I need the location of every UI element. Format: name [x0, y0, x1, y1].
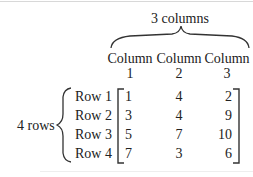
matrix-cell-r4-c3: 6 — [210, 147, 232, 161]
matrix-cell-r4-c2: 3 — [170, 147, 188, 161]
column-header-1-number: 1 — [106, 67, 154, 81]
column-header-2: Column — [155, 52, 203, 66]
column-header-3: Column — [203, 52, 251, 66]
matrix-cell-r4-c1: 7 — [125, 147, 132, 161]
columns-brace-icon — [111, 26, 249, 48]
rows-brace-icon — [57, 88, 71, 162]
row-label-2: Row 2 — [75, 109, 112, 123]
rows-count-label: 4 rows — [17, 119, 55, 133]
matrix-cell-r1-c3: 2 — [210, 90, 232, 104]
column-header-1: Column — [106, 52, 154, 66]
row-label-4: Row 4 — [75, 147, 112, 161]
right-bracket-icon — [233, 89, 239, 163]
matrix-cell-r1-c2: 4 — [170, 90, 188, 104]
row-label-1: Row 1 — [75, 90, 112, 104]
left-bracket-icon — [118, 89, 124, 163]
matrix-cell-r2-c3: 9 — [210, 109, 232, 123]
column-header-2-number: 2 — [155, 67, 203, 81]
matrix-cell-r1-c1: 1 — [125, 90, 132, 104]
bottom-divider — [40, 171, 253, 172]
matrix-cell-r2-c1: 3 — [125, 109, 132, 123]
row-label-3: Row 3 — [75, 128, 112, 142]
matrix-cell-r3-c1: 5 — [125, 128, 132, 142]
matrix-cell-r3-c2: 7 — [170, 128, 188, 142]
matrix-cell-r2-c2: 4 — [170, 109, 188, 123]
matrix-cell-r3-c3: 10 — [210, 128, 232, 142]
column-header-3-number: 3 — [203, 67, 251, 81]
